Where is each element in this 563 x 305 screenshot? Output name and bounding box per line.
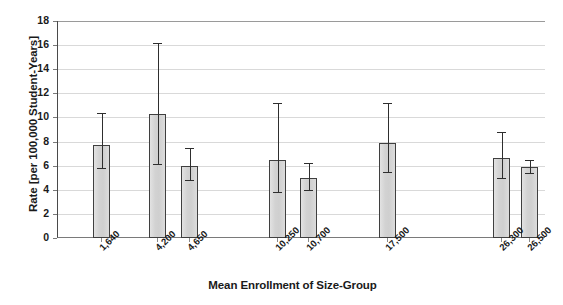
y-axis-tick — [53, 214, 57, 215]
error-bar-cap-upper — [273, 103, 282, 104]
y-axis-tick — [53, 117, 57, 118]
gridline — [58, 117, 545, 118]
y-axis-tick-label: 4 — [23, 183, 49, 195]
gridline — [58, 93, 545, 94]
y-axis-tick-label: 0 — [23, 231, 49, 243]
y-axis-tick-label: 8 — [23, 135, 49, 147]
error-bar-line — [388, 103, 389, 172]
error-bar-line — [158, 43, 159, 165]
error-bar-cap-lower — [153, 164, 162, 165]
x-axis-title: Mean Enrollment of Size-Group — [40, 279, 545, 291]
error-bar-line — [102, 113, 103, 168]
y-axis-tick — [53, 166, 57, 167]
error-bar-cap-upper — [97, 113, 106, 114]
y-axis-tick — [53, 190, 57, 191]
plot-inner — [58, 21, 545, 237]
gridline — [58, 69, 545, 70]
y-axis-tick-label: 18 — [23, 14, 49, 26]
y-axis-tick-label: 12 — [23, 86, 49, 98]
error-bar-line — [278, 103, 279, 192]
gridline — [58, 166, 545, 167]
plot-area — [57, 21, 545, 238]
error-bar-cap-lower — [525, 173, 534, 174]
y-axis-tick — [53, 93, 57, 94]
error-bar-cap-lower — [97, 168, 106, 169]
error-bar-line — [502, 132, 503, 178]
error-bar-cap-lower — [273, 192, 282, 193]
y-axis-tick-label: 14 — [23, 62, 49, 74]
y-axis-tick-label: 2 — [23, 207, 49, 219]
y-axis-tick — [53, 142, 57, 143]
error-bar-cap-upper — [185, 148, 194, 149]
y-axis-tick — [53, 21, 57, 22]
bar-chart: Rate [per 100,000 Student-Years] 0246810… — [0, 0, 563, 305]
error-bar-cap-lower — [383, 172, 392, 173]
error-bar-line — [190, 148, 191, 181]
error-bar-cap-upper — [497, 132, 506, 133]
error-bar-cap-lower — [497, 178, 506, 179]
y-axis-tick-label: 6 — [23, 159, 49, 171]
error-bar-cap-upper — [525, 160, 534, 161]
y-axis-tick-label: 16 — [23, 38, 49, 50]
y-axis-tick — [53, 69, 57, 70]
gridline — [58, 45, 545, 46]
y-axis-tick — [53, 238, 57, 239]
error-bar-cap-upper — [383, 103, 392, 104]
error-bar-line — [309, 163, 310, 190]
y-axis-tick — [53, 45, 57, 46]
error-bar-cap-upper — [304, 163, 313, 164]
y-axis-tick-label: 10 — [23, 110, 49, 122]
gridline — [58, 142, 545, 143]
error-bar-cap-lower — [304, 190, 313, 191]
bar — [521, 167, 538, 238]
error-bar-cap-lower — [185, 180, 194, 181]
gridline — [58, 21, 545, 22]
error-bar-line — [530, 160, 531, 173]
error-bar-cap-upper — [153, 43, 162, 44]
